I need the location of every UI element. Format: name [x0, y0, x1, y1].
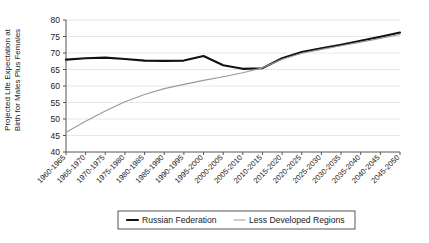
- x-axis-labels: 1960-19651965-19701970-19751975-19801980…: [35, 153, 401, 185]
- series-line: [66, 33, 400, 69]
- y-axis-title: Projected Life Expectation at Birth for …: [3, 0, 43, 160]
- gridlines: [66, 20, 400, 136]
- y-axis-ticks: 404550556065707580: [51, 15, 66, 157]
- y-axis-title-line1: Projected Life Expectation at: [3, 0, 13, 160]
- y-tick-label: 55: [51, 98, 61, 108]
- y-tick-label: 60: [51, 81, 61, 91]
- data-series-group: [66, 33, 400, 133]
- y-tick-label: 50: [51, 114, 61, 124]
- y-tick-label: 75: [51, 32, 61, 42]
- y-tick-label: 65: [51, 65, 61, 75]
- legend-label: Less Developed Regions: [249, 215, 345, 225]
- chart-legend: Russian FederationLess Developed Regions: [118, 211, 355, 229]
- y-tick-label: 70: [51, 48, 61, 58]
- y-tick-label: 80: [51, 15, 61, 25]
- y-axis-title-line2: Birth for Males Plus Females: [13, 0, 23, 160]
- y-tick-label: 45: [51, 131, 61, 141]
- chart-figure: Projected Life Expectation at Birth for …: [0, 0, 429, 243]
- legend-label: Russian Federation: [142, 215, 217, 225]
- series-line: [66, 35, 400, 133]
- chart-plot-area: 404550556065707580 1960-19651965-1970197…: [0, 0, 429, 243]
